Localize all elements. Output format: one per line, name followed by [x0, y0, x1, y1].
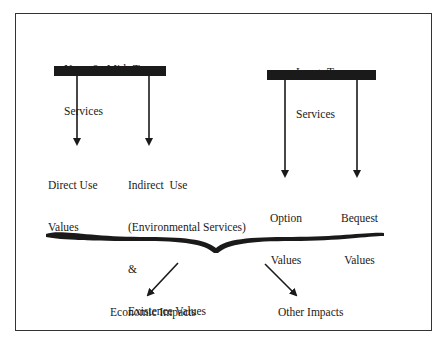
label-line: Values [48, 220, 98, 234]
option-values-label: Option Values [270, 183, 302, 281]
near-mid-term-title: Near & Mid -Term Services [64, 34, 157, 132]
other-impacts-label: Other Impacts [278, 305, 343, 319]
label-line: (Environmental Services) [128, 220, 246, 234]
label-line: Values [270, 253, 302, 267]
title-line: Services [64, 104, 157, 118]
label-line: Indirect Use [128, 178, 246, 192]
title-line: Near & Mid -Term [64, 62, 157, 76]
label-line: Direct Use [48, 178, 98, 192]
label-line: Option [270, 211, 302, 225]
bequest-values-label: Bequest Values [341, 183, 378, 281]
label-line: Bequest [341, 211, 378, 225]
long-term-title: Long -Term Services [296, 37, 351, 135]
title-line: Services [296, 107, 351, 121]
direct-use-values-label: Direct Use Values [48, 150, 98, 248]
label-line: Values [341, 253, 378, 267]
title-line: Long -Term [296, 65, 351, 79]
economic-impacts-label: Economic Impacts [110, 305, 196, 319]
label-line: & [128, 262, 246, 276]
